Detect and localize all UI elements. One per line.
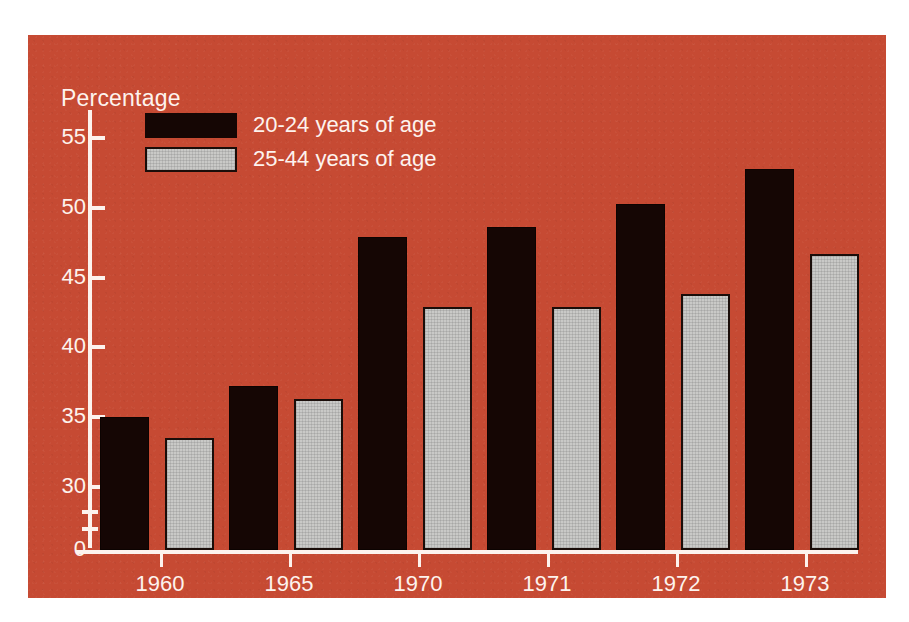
bar-1973-series2 bbox=[810, 254, 859, 550]
chart-panel: Percentage 20-24 years of age 25-44 year… bbox=[28, 35, 886, 598]
bar-1972-series2 bbox=[681, 294, 730, 550]
legend-label: 25-44 years of age bbox=[253, 146, 436, 172]
x-tick bbox=[676, 554, 679, 567]
x-tick bbox=[160, 554, 163, 567]
bar-1973-series1 bbox=[745, 169, 794, 550]
y-tick-label: 45 bbox=[40, 266, 86, 288]
bar-1970-series2 bbox=[423, 307, 472, 550]
bar-1960-series1 bbox=[100, 417, 149, 550]
x-tick bbox=[805, 554, 808, 567]
legend-item: 25-44 years of age bbox=[145, 142, 436, 176]
legend-label: 20-24 years of age bbox=[253, 112, 436, 138]
bar-1971-series1 bbox=[487, 227, 536, 550]
x-tick bbox=[289, 554, 292, 567]
legend-swatch-light bbox=[145, 147, 237, 172]
y-tick-label: 30 bbox=[40, 475, 86, 497]
y-axis-line bbox=[88, 110, 92, 548]
y-tick-label: 40 bbox=[40, 335, 86, 357]
y-tick bbox=[92, 276, 105, 280]
y-tick-label: 0 bbox=[40, 538, 86, 560]
x-tick-label: 1973 bbox=[760, 571, 850, 597]
bar-1965-series1 bbox=[229, 386, 278, 550]
x-axis-line bbox=[76, 550, 858, 554]
x-tick-label: 1971 bbox=[502, 571, 592, 597]
bar-1970-series1 bbox=[358, 237, 407, 550]
y-tick bbox=[92, 206, 105, 210]
axis-break-mark-lower bbox=[82, 527, 98, 531]
x-tick-label: 1972 bbox=[631, 571, 721, 597]
axis-break-mark-upper bbox=[82, 510, 98, 514]
y-tick-label: 50 bbox=[40, 196, 86, 218]
y-tick bbox=[92, 345, 105, 349]
chart-figure: Percentage 20-24 years of age 25-44 year… bbox=[0, 0, 909, 622]
x-tick-label: 1960 bbox=[115, 571, 205, 597]
bar-1972-series1 bbox=[616, 204, 665, 550]
x-tick bbox=[418, 554, 421, 567]
bar-1960-series2 bbox=[165, 438, 214, 550]
y-tick bbox=[92, 136, 105, 140]
x-tick-label: 1965 bbox=[244, 571, 334, 597]
bar-1971-series2 bbox=[552, 307, 601, 550]
x-tick-label: 1970 bbox=[373, 571, 463, 597]
legend-item: 20-24 years of age bbox=[145, 108, 436, 142]
bar-1965-series2 bbox=[294, 399, 343, 550]
y-tick-label: 35 bbox=[40, 405, 86, 427]
x-tick bbox=[547, 554, 550, 567]
legend-swatch-dark bbox=[145, 113, 237, 138]
y-tick-label: 55 bbox=[40, 126, 86, 148]
chart-legend: 20-24 years of age 25-44 years of age bbox=[145, 108, 436, 176]
